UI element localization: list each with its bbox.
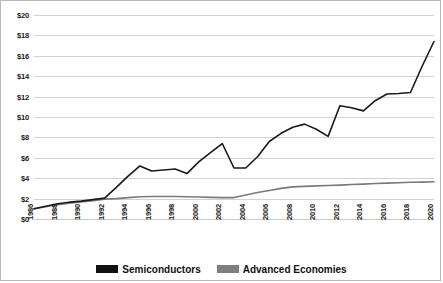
y-axis: $20$18$16$14$12$10$8$6$4$2$0 <box>1 15 32 219</box>
legend-item-advanced-economies[interactable]: Advanced Economies <box>217 264 347 275</box>
y-tick-label: $8 <box>21 133 29 142</box>
chart-legend: Semiconductors Advanced Economies <box>1 259 442 279</box>
y-tick-label: $12 <box>17 92 29 101</box>
y-tick-label: $10 <box>17 113 29 122</box>
y-tick-label: $14 <box>17 72 29 81</box>
x-tick-label: 1988 <box>49 204 58 220</box>
x-tick-label: 2014 <box>355 204 364 220</box>
chart-figure: $20$18$16$14$12$10$8$6$4$2$0 19861988199… <box>0 0 441 281</box>
x-tick-label: 2010 <box>308 204 317 220</box>
y-tick-label: $2 <box>21 194 29 203</box>
x-tick-label: 2006 <box>261 204 270 220</box>
x-axis: 1986198819901992199419961998200020022004… <box>34 220 434 256</box>
x-tick-label: 1986 <box>26 204 35 220</box>
x-tick-label: 2000 <box>190 204 199 220</box>
y-tick-label: $6 <box>21 153 29 162</box>
x-tick-label: 1990 <box>73 204 82 220</box>
x-tick-label: 1994 <box>120 204 129 220</box>
y-tick-label: $18 <box>17 31 29 40</box>
x-tick-label: 1992 <box>96 204 105 220</box>
y-tick-label: $4 <box>21 174 29 183</box>
plot-area <box>34 15 434 219</box>
x-tick-label: 1996 <box>143 204 152 220</box>
x-tick-label: 2002 <box>214 204 223 220</box>
x-tick-label: 2008 <box>284 204 293 220</box>
line-advanced-economies <box>34 182 434 209</box>
y-tick-label: $20 <box>17 11 29 20</box>
x-tick-label: 2016 <box>378 204 387 220</box>
legend-swatch-semiconductors <box>96 265 118 273</box>
legend-label-advanced-economies: Advanced Economies <box>243 264 347 275</box>
x-tick-label: 2018 <box>402 204 411 220</box>
x-tick-label: 2004 <box>237 204 246 220</box>
x-tick-label: 2012 <box>331 204 340 220</box>
y-tick-label: $16 <box>17 51 29 60</box>
series-layer <box>34 15 434 219</box>
x-tick-label: 1998 <box>167 204 176 220</box>
legend-item-semiconductors[interactable]: Semiconductors <box>96 264 200 275</box>
legend-swatch-advanced-economies <box>217 265 239 273</box>
x-tick-label: 2020 <box>426 204 435 220</box>
legend-label-semiconductors: Semiconductors <box>122 264 200 275</box>
